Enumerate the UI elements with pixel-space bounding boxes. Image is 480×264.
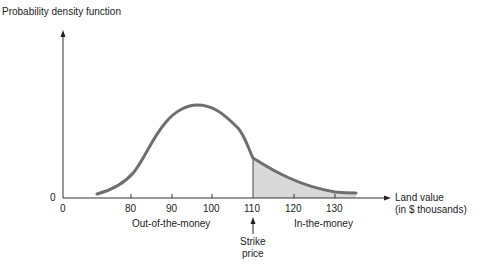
y-axis-arrow-icon — [61, 30, 66, 37]
tick-label-80: 80 — [125, 203, 136, 215]
x-axis-label-line2: (in $ thousands) — [395, 204, 467, 216]
tick-label-120: 120 — [285, 203, 302, 215]
chart-canvas — [0, 0, 480, 264]
x-axis-label-line1: Land value — [395, 192, 444, 204]
out-of-the-money-label: Out-of-the-money — [132, 218, 210, 230]
strike-label-line2: price — [242, 248, 264, 260]
x-axis-arrow-icon — [384, 196, 391, 201]
tick-label-130: 130 — [326, 203, 343, 215]
y-origin-label: 0 — [50, 192, 56, 204]
tick-label-100: 100 — [203, 203, 220, 215]
tick-label-110: 110 — [244, 203, 260, 215]
strike-arrow-icon — [251, 217, 256, 224]
x-origin-label: 0 — [60, 203, 66, 215]
tick-label-90: 90 — [166, 203, 177, 215]
strike-label-line1: Strike — [240, 236, 266, 248]
density-curve — [97, 105, 356, 194]
y-axis-label: Probability density function — [2, 6, 121, 18]
in-the-money-label: In-the-money — [294, 218, 353, 230]
